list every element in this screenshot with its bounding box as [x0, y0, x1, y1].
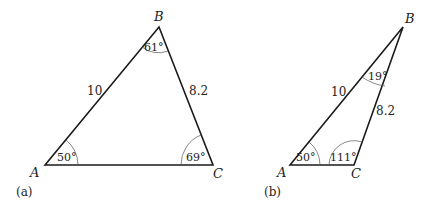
side-label-a-BC: 8.2 [189, 84, 208, 98]
triangle-a: A B C 10 8.2 50° 61° 69° (a) [16, 9, 223, 199]
angle-label-b-B: 19° [368, 70, 388, 83]
triangles-diagram: A B C 10 8.2 50° 61° 69° (a) A B C 10 8.… [0, 0, 430, 206]
angle-label-a-B: 61° [144, 41, 164, 54]
angle-label-a-A: 50° [57, 151, 77, 164]
vertex-label-b-B: B [404, 11, 415, 26]
vertex-label-a-C: C [213, 166, 223, 181]
vertex-label-a-A: A [29, 165, 39, 180]
angle-label-b-A: 50° [296, 151, 316, 164]
caption-b: (b) [264, 185, 281, 199]
vertex-label-b-A: A [276, 165, 286, 180]
caption-a: (a) [16, 185, 33, 199]
side-label-b-BC: 8.2 [376, 104, 395, 118]
triangle-b: A B C 10 8.2 50° 19° 111° (b) [264, 11, 415, 199]
side-label-b-AB: 10 [331, 85, 346, 99]
vertex-label-b-C: C [351, 166, 361, 181]
side-label-a-AB: 10 [87, 84, 102, 98]
angle-label-b-C: 111° [330, 151, 357, 164]
vertex-label-a-B: B [153, 9, 164, 24]
triangle-b-outline [290, 27, 403, 165]
angle-label-a-C: 69° [186, 151, 206, 164]
